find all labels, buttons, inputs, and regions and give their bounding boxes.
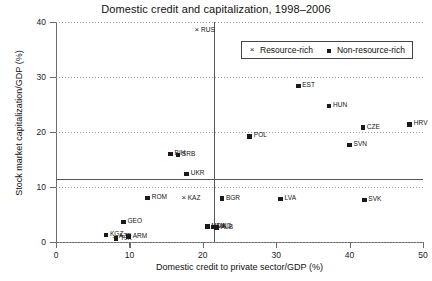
x-tick-label: 50 — [403, 250, 432, 260]
data-point-label: SVN — [354, 140, 368, 147]
data-point-label: EST — [302, 81, 315, 88]
square-marker-icon — [121, 220, 126, 225]
legend-label: Non-resource-rich — [337, 45, 405, 55]
square-marker-icon — [214, 225, 219, 230]
cross-marker-icon: × — [248, 46, 256, 54]
gridline-y — [56, 242, 423, 243]
square-marker-icon — [126, 234, 131, 239]
square-marker-icon — [296, 84, 301, 89]
y-tick — [50, 77, 56, 78]
y-tick — [50, 187, 56, 188]
data-point-label: UKR — [191, 169, 205, 176]
data-point-label: BGR — [226, 194, 240, 201]
x-tick-label: 20 — [183, 250, 223, 260]
square-marker-icon — [327, 104, 332, 109]
data-point-label: HUN — [333, 101, 347, 108]
square-marker-icon — [347, 143, 352, 148]
data-point-label: ALB — [221, 223, 233, 230]
data-point-label: HRV — [414, 119, 428, 126]
data-point-label: POL — [254, 131, 267, 138]
y-tick-label: 0 — [0, 237, 46, 247]
square-marker-icon — [220, 196, 225, 201]
reference-line-vertical — [214, 22, 215, 242]
legend-label: Resource-rich — [260, 45, 313, 55]
cross-marker-icon — [194, 27, 201, 34]
x-tick — [423, 242, 424, 248]
reference-line-horizontal — [56, 179, 423, 180]
chart-title: Domestic credit and capitalization, 1998… — [0, 3, 432, 15]
square-marker-icon — [168, 152, 173, 157]
data-point-label: RUS — [201, 26, 215, 33]
x-axis-label: Domestic credit to private sector/GDP (%… — [56, 262, 423, 272]
x-tick-label: 40 — [330, 250, 370, 260]
x-tick — [56, 242, 57, 248]
square-marker-icon — [184, 172, 189, 177]
x-tick-label: 0 — [36, 250, 76, 260]
data-point-label: ROM — [152, 193, 167, 200]
square-marker-icon — [325, 46, 333, 54]
chart-legend: × Resource-rich Non-resource-rich — [241, 41, 413, 59]
square-marker-icon — [145, 196, 150, 201]
gridline-y — [56, 132, 423, 133]
square-marker-icon — [104, 233, 109, 238]
square-marker-icon — [176, 153, 181, 158]
data-point-label: SRB — [182, 150, 196, 157]
cross-marker-icon — [180, 195, 187, 202]
x-tick — [276, 242, 277, 248]
square-marker-icon — [205, 224, 210, 229]
legend-item-resource-rich: × Resource-rich — [248, 45, 313, 55]
chart-figure: Domestic credit and capitalization, 1998… — [0, 0, 432, 281]
square-marker-icon — [114, 236, 119, 241]
gridline-y — [56, 77, 423, 78]
y-tick — [50, 132, 56, 133]
x-tick — [350, 242, 351, 248]
square-marker-icon — [362, 198, 367, 203]
square-marker-icon — [407, 122, 412, 127]
data-point-label: KAZ — [188, 194, 201, 201]
data-point-label: CZE — [367, 123, 380, 130]
y-axis-label: Stock market capitalization/GDP (%) — [14, 8, 24, 238]
gridline-y — [56, 22, 423, 23]
x-tick-label: 30 — [256, 250, 296, 260]
square-marker-icon — [278, 197, 283, 202]
x-tick — [203, 242, 204, 248]
data-point-label: SVK — [368, 195, 381, 202]
square-marker-icon — [247, 134, 252, 139]
y-tick — [50, 22, 56, 23]
gridline-y — [56, 187, 423, 188]
legend-item-non-resource-rich: Non-resource-rich — [325, 45, 405, 55]
x-tick — [129, 242, 130, 248]
x-tick-label: 10 — [109, 250, 149, 260]
data-point-label: ARM — [133, 232, 148, 239]
data-point-label: LVA — [285, 194, 296, 201]
square-marker-icon — [361, 125, 366, 130]
data-point-label: GEO — [128, 217, 143, 224]
